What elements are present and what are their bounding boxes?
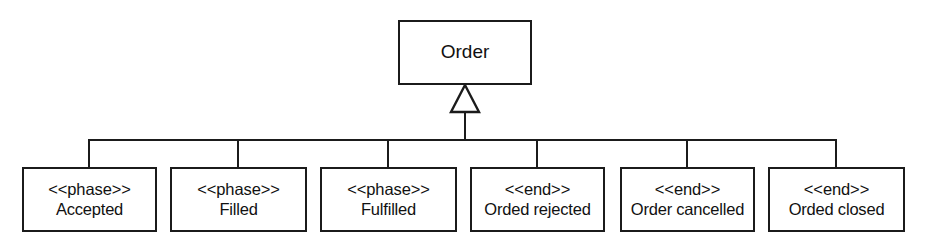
uml-class-order-name: Order bbox=[441, 41, 490, 63]
uml-stereotype-label: <<phase>> bbox=[347, 180, 430, 199]
uml-class-name-label: Fulfilled bbox=[361, 200, 416, 219]
uml-stereotype-label: <<phase>> bbox=[48, 180, 131, 199]
uml-stereotype-label: <<end>> bbox=[505, 180, 570, 199]
uml-class-name-label: Orded closed bbox=[789, 200, 885, 219]
uml-class-name-label: Order cancelled bbox=[631, 200, 744, 219]
uml-class-box[interactable]: <<end>>Orded rejected bbox=[470, 167, 605, 232]
uml-stereotype-label: <<end>> bbox=[804, 180, 869, 199]
uml-class-name-label: Orded rejected bbox=[484, 200, 590, 219]
uml-class-box[interactable]: <<phase>>Accepted bbox=[22, 167, 157, 232]
uml-stereotype-label: <<phase>> bbox=[197, 180, 280, 199]
generalization-triangle-icon bbox=[451, 85, 479, 112]
uml-stereotype-label: <<end>> bbox=[655, 180, 720, 199]
uml-class-name-label: Accepted bbox=[56, 200, 123, 219]
uml-class-name-label: Filled bbox=[219, 200, 257, 219]
uml-class-box[interactable]: <<end>>Orded closed bbox=[768, 167, 905, 232]
uml-class-box[interactable]: <<phase>>Filled bbox=[170, 167, 307, 232]
uml-class-order[interactable]: Order bbox=[398, 20, 532, 85]
generalization-connector bbox=[89, 112, 836, 167]
uml-diagram-canvas: Order <<phase>>Accepted<<phase>>Filled<<… bbox=[0, 0, 931, 250]
uml-class-box[interactable]: <<end>>Order cancelled bbox=[620, 167, 755, 232]
uml-class-box[interactable]: <<phase>>Fulfilled bbox=[320, 167, 457, 232]
